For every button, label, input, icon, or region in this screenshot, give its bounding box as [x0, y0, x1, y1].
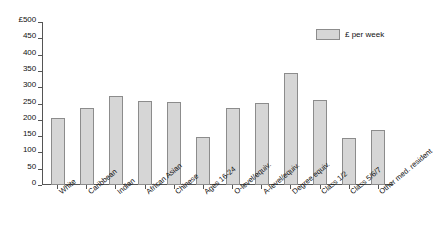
bar-slot [43, 22, 72, 185]
bar-slot [306, 22, 335, 185]
y-axis-tick-mark [38, 185, 42, 186]
x-axis-label-slot: Degree equiv. [276, 189, 305, 249]
x-axis-label-slot: Ages 16-24 [189, 189, 218, 249]
x-axis-label-slot: African Asian [131, 189, 160, 249]
x-axis-label-slot: White [43, 189, 72, 249]
bar-series [43, 22, 393, 185]
bar-slot [276, 22, 305, 185]
bar-slot [247, 22, 276, 185]
y-axis-tick-label: 200 [23, 114, 36, 122]
bar[interactable] [138, 101, 152, 185]
bar-slot [189, 22, 218, 185]
x-axis-label-slot: Other med. resident [364, 189, 393, 249]
y-axis-tick-label: 150 [23, 130, 36, 138]
x-axis-label-slot: Caribbean [72, 189, 101, 249]
y-axis-tick-label: 450 [23, 32, 36, 40]
x-axis-label-slot: O-level/equiv. [218, 189, 247, 249]
y-axis-tick-label: 350 [23, 65, 36, 73]
x-axis-label-slot: Chinese [160, 189, 189, 249]
x-axis-labels: WhiteCaribbeanIndianAfrican AsianChinese… [43, 189, 393, 249]
y-axis-tick-label: 300 [23, 81, 36, 89]
legend-swatch-gbp-per-week [316, 29, 340, 40]
bar-slot [72, 22, 101, 185]
legend: £ per week [313, 27, 387, 42]
y-axis-tick-label: 400 [23, 49, 36, 57]
y-axis-tick-label: 250 [23, 98, 36, 106]
bar-slot [218, 22, 247, 185]
y-axis-tick-label: £500 [19, 16, 36, 24]
y-axis-tick-label: 50 [27, 163, 36, 171]
x-axis-label-slot: Indian [101, 189, 130, 249]
x-axis-label-slot: A-level/equiv. [247, 189, 276, 249]
x-axis-label-slot: Class 1/2 [306, 189, 335, 249]
x-axis-label-slot: Class 5/6/7 [335, 189, 364, 249]
bar[interactable] [51, 118, 65, 185]
y-axis: 050100150200250300350400450£500 [0, 22, 42, 185]
bar-slot [364, 22, 393, 185]
y-axis-tick-label: 0 [32, 179, 36, 187]
legend-label-gbp-per-week: £ per week [345, 30, 384, 39]
bar-slot [131, 22, 160, 185]
bar-slot [101, 22, 130, 185]
bar[interactable] [80, 108, 94, 185]
y-axis-tick-label: 100 [23, 146, 36, 154]
bar-slot [160, 22, 189, 185]
bar-slot [335, 22, 364, 185]
